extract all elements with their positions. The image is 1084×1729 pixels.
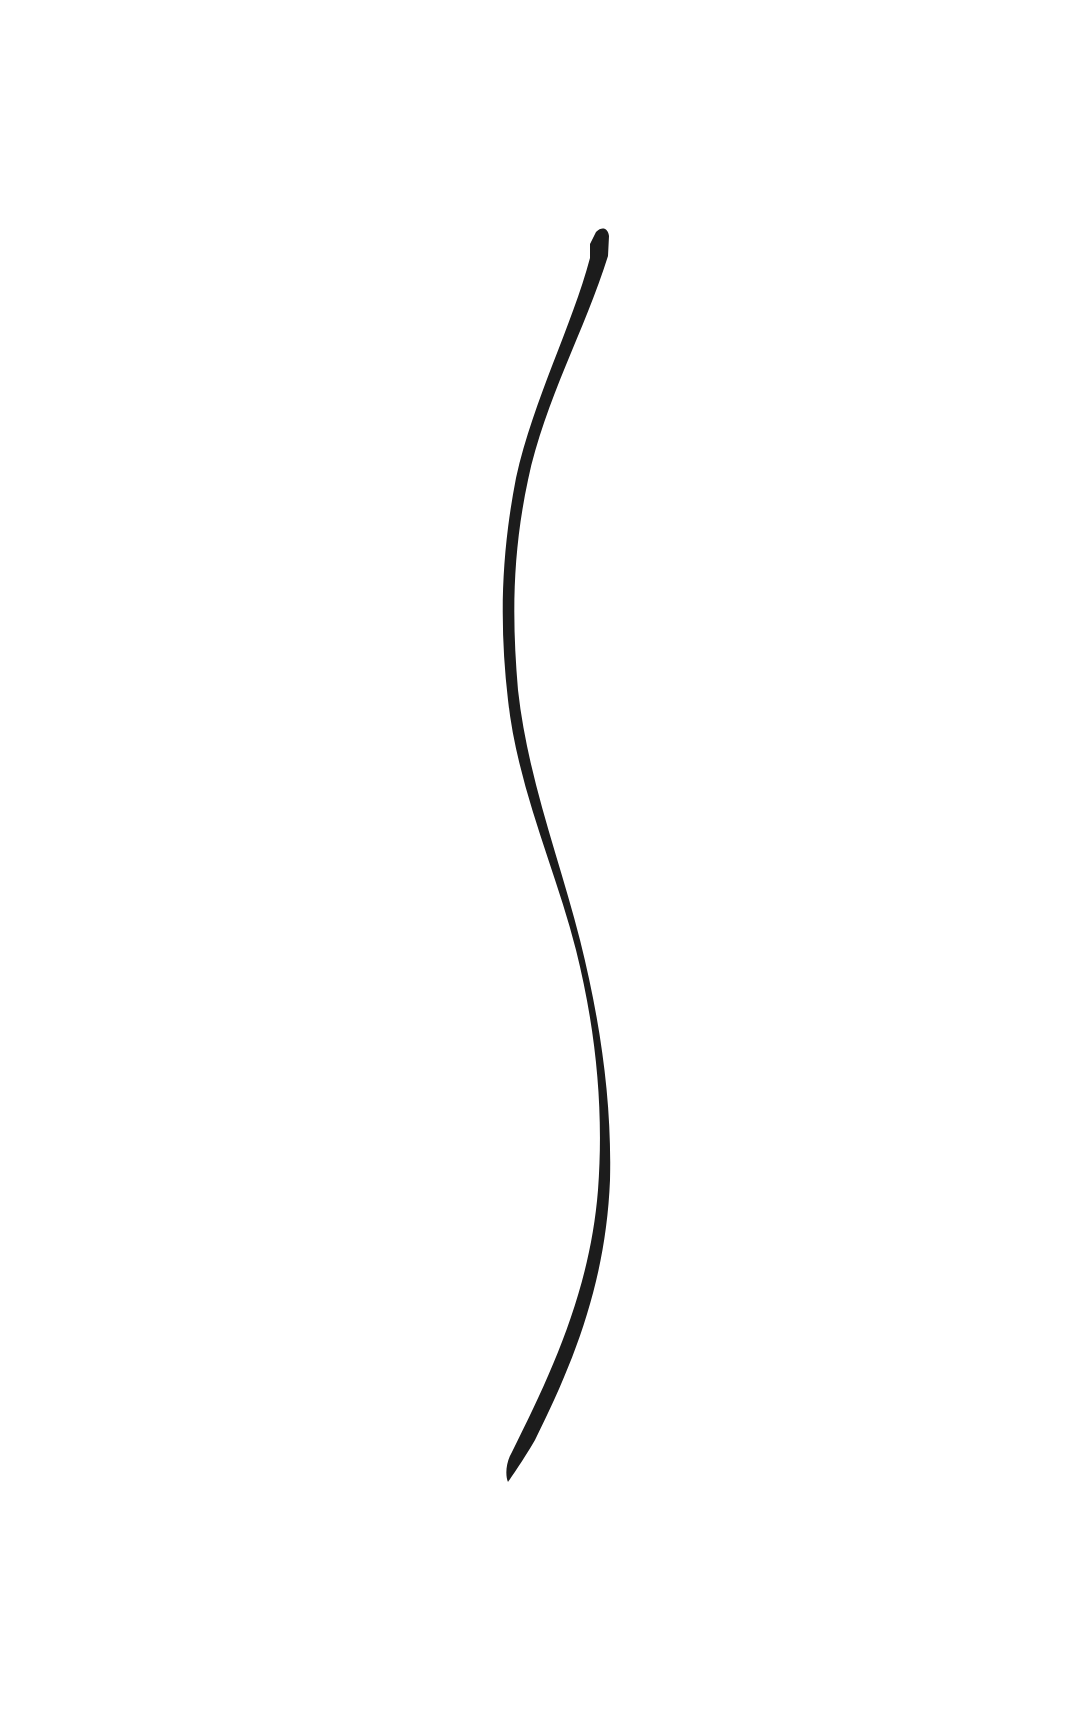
background [0,0,1084,1729]
brush-stroke-canvas [0,0,1084,1729]
